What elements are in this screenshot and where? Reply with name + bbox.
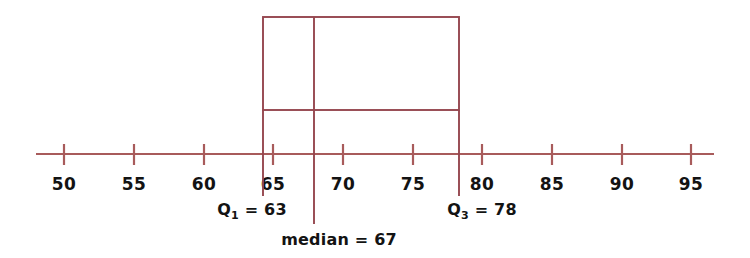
annotation-q1: Q1 = 63 (217, 200, 286, 222)
q3-label-subscript: 3 (461, 209, 469, 222)
quartile-marker-group (263, 110, 459, 224)
boxplot-figure: 50 55 60 65 70 75 80 85 90 95 Q1 = 63 Q3… (0, 0, 750, 258)
tick-label-80: 80 (470, 174, 494, 194)
tick-label-95: 95 (679, 174, 703, 194)
q3-label-value: = 78 (469, 200, 517, 219)
tick-label-70: 70 (331, 174, 355, 194)
box-group (263, 17, 459, 110)
q3-label-prefix: Q (447, 200, 461, 219)
axis-group: 50 55 60 65 70 75 80 85 90 95 (36, 144, 714, 194)
annotation-median: median = 67 (281, 230, 397, 249)
box-rect (263, 17, 459, 110)
q1-label-subscript: 1 (231, 209, 239, 222)
tick-label-65: 65 (261, 174, 285, 194)
tick-label-75: 75 (401, 174, 425, 194)
median-label: median = 67 (281, 230, 397, 249)
tick-label-85: 85 (540, 174, 564, 194)
annotation-q3: Q3 = 78 (447, 200, 516, 222)
tick-label-60: 60 (192, 174, 216, 194)
tick-label-50: 50 (52, 174, 76, 194)
svg-text:Q1 = 63: Q1 = 63 (217, 200, 286, 222)
tick-label-55: 55 (122, 174, 146, 194)
q1-label-prefix: Q (217, 200, 231, 219)
svg-text:Q3 = 78: Q3 = 78 (447, 200, 516, 222)
q1-label-value: = 63 (239, 200, 287, 219)
tick-label-90: 90 (610, 174, 634, 194)
boxplot-svg: 50 55 60 65 70 75 80 85 90 95 Q1 = 63 Q3… (0, 0, 750, 258)
